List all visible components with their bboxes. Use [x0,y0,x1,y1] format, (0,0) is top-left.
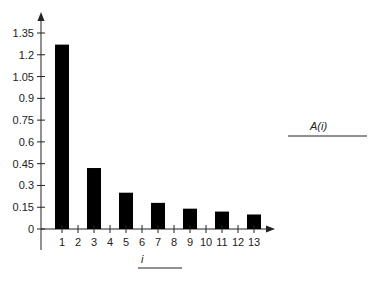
x-tick-label: 2 [75,236,81,248]
y-axis-arrow-icon [38,12,45,21]
x-axis-label: i [141,253,144,265]
x-tick-label: 11 [216,236,227,248]
y-tick-label: 1.05 [13,71,34,83]
x-tick-label: 12 [232,236,244,248]
bar-3 [87,168,101,229]
y-tick-label: 0.15 [13,201,34,213]
bar-1 [55,45,69,229]
y-tick-label: 0.45 [13,158,34,170]
y-tick-label: 0 [28,223,34,235]
x-axis-arrow-icon [266,226,275,233]
x-tick-label: 3 [91,236,97,248]
x-tick-label: 1 [59,236,65,248]
y-tick-label: 0.9 [19,92,34,104]
bars [55,45,261,229]
y-tick-label: 0.75 [13,114,34,126]
x-tick-label: 6 [139,236,145,248]
y-tick-label: 1.35 [13,27,34,39]
x-tick-label: 10 [200,236,212,248]
y-tick-label: 0.6 [19,136,34,148]
y-tick-label: 0.3 [19,179,34,191]
y-ticks: 00.150.30.450.60.750.91.051.21.35 [13,27,45,235]
bar-chart: 00.150.30.450.60.750.91.051.21.35 123456… [0,0,385,283]
y-axis-label: A(i) [309,120,327,132]
x-tick-label: 9 [187,236,193,248]
x-tick-label: 4 [107,236,113,248]
x-tick-label: 13 [248,236,260,248]
x-tick-label: 8 [171,236,177,248]
x-tick-label: 5 [123,236,129,248]
bar-5 [119,193,133,229]
y-tick-label: 1.2 [19,49,34,61]
x-tick-label: 7 [155,236,161,248]
